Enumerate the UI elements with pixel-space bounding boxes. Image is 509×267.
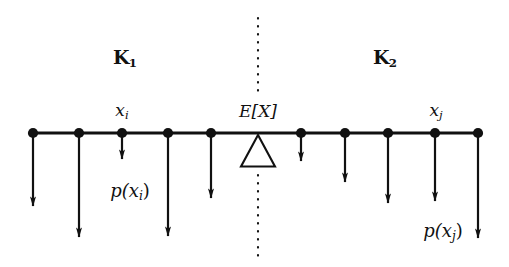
probability-label-pxi: p(xi) (110, 182, 150, 203)
probability-label-pxj: p(xj) (423, 222, 463, 243)
pxi-prefix: p( (110, 180, 129, 201)
point-label-xi: xi (115, 102, 128, 122)
pxi-symbol: x (129, 180, 139, 201)
data-point-dot (206, 128, 216, 138)
pxj-prefix: p( (423, 220, 442, 241)
fulcrum-triangle (241, 135, 275, 167)
xi-subscript: i (125, 108, 129, 122)
data-point-dot (383, 128, 393, 138)
xj-symbol: x (429, 100, 439, 120)
data-point-dot (74, 128, 84, 138)
data-point-dot (28, 128, 38, 138)
region-k1-symbol: K (113, 46, 129, 68)
region-label-k1: K1 (113, 48, 137, 70)
pxj-symbol: x (442, 220, 452, 241)
region-k2-symbol: K (373, 46, 389, 68)
region-label-k2: K2 (373, 48, 397, 70)
expectation-label: E[X] (239, 103, 277, 120)
pxj-suffix: ) (456, 220, 463, 241)
data-point-dot (340, 128, 350, 138)
data-point-dot (163, 128, 173, 138)
data-point-dot (473, 128, 483, 138)
xi-symbol: x (115, 100, 125, 120)
region-k2-subscript: 2 (389, 56, 397, 70)
point-label-xj: xj (429, 102, 442, 122)
data-point-dot (296, 128, 306, 138)
pxi-suffix: ) (143, 180, 150, 201)
region-k1-subscript: 1 (129, 56, 137, 70)
data-point-dot (430, 128, 440, 138)
xj-subscript: j (439, 108, 443, 122)
data-point-dot (117, 128, 127, 138)
balance-beam-diagram: K1 K2 xi xj E[X] p(xi) p(xj) (0, 0, 509, 267)
